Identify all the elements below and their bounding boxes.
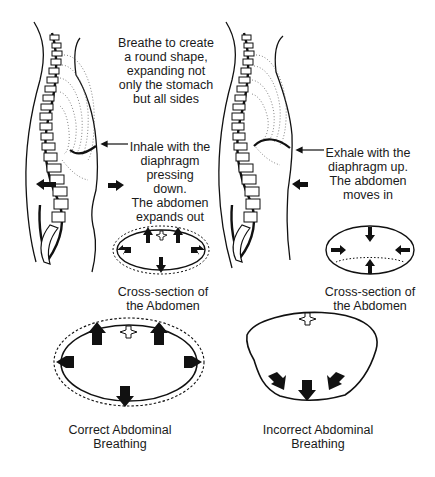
note-line: diaphragm xyxy=(128,154,212,168)
left-title-note: Breathe to create a round shape, expandi… xyxy=(110,36,222,106)
label-line: the Abdomen xyxy=(322,299,418,313)
note-line: expanding not xyxy=(110,64,222,78)
caption-line: Incorrect Abdominal xyxy=(253,423,383,437)
incorrect-caption: Incorrect Abdominal Breathing xyxy=(253,423,383,451)
exhale-note: Exhale with the diaphragm up. The abdome… xyxy=(325,146,411,202)
label-line: the Abdomen xyxy=(115,299,211,313)
note-line: The abdomen xyxy=(128,196,212,210)
label-line: Cross-section of xyxy=(322,285,418,299)
correct-caption: Correct Abdominal Breathing xyxy=(55,423,185,451)
note-line: diaphragm up. xyxy=(325,160,411,174)
note-line: a round shape, xyxy=(110,50,222,64)
left-cross-section xyxy=(113,226,209,274)
label-line: Cross-section of xyxy=(115,285,211,299)
right-diaphragm-line xyxy=(254,139,290,148)
left-cross-section-label: Cross-section of the Abdomen xyxy=(115,285,211,313)
note-line: moves in xyxy=(325,188,411,202)
caption-line: Correct Abdominal xyxy=(55,423,185,437)
right-spine xyxy=(231,33,260,262)
spine-section-icon xyxy=(156,231,167,240)
left-lung-stipple xyxy=(60,55,94,180)
note-line: but all sides xyxy=(110,92,222,106)
note-line: expands out xyxy=(128,210,212,224)
note-line: only the stomach xyxy=(110,78,222,92)
incorrect-breathing-diagram xyxy=(247,312,377,401)
left-spine xyxy=(39,33,68,264)
right-front-arrow-icon xyxy=(292,179,308,190)
spine-section-icon xyxy=(120,326,137,338)
note-line: The abdomen xyxy=(325,174,411,188)
right-lung-stipple xyxy=(252,55,286,165)
correct-breathing-diagram xyxy=(54,318,204,407)
caption-line: Breathing xyxy=(253,437,383,451)
right-cross-section-label: Cross-section of the Abdomen xyxy=(322,285,418,313)
left-body-profile xyxy=(26,22,98,272)
spine-section-icon xyxy=(299,313,316,325)
note-line: Inhale with the xyxy=(128,140,212,154)
note-line: Breathe to create xyxy=(110,36,222,50)
inhale-note: Inhale with the diaphragm pressing down.… xyxy=(128,140,212,224)
note-line: Exhale with the xyxy=(325,146,411,160)
note-line: pressing down. xyxy=(128,168,212,196)
left-front-arrow-icon xyxy=(108,180,124,191)
caption-line: Breathing xyxy=(55,437,185,451)
right-cross-section xyxy=(326,226,414,274)
